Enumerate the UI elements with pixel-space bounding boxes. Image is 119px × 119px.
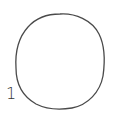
diagram-canvas <box>0 0 119 119</box>
circle-label: 1 <box>6 86 16 102</box>
circle-shape <box>16 14 104 109</box>
